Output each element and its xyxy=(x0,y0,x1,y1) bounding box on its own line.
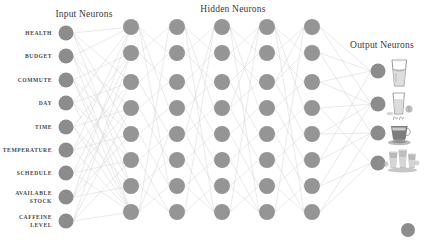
input-label-schedule: SCHEDULE xyxy=(17,170,52,176)
hidden-neurons-column-3 xyxy=(214,19,230,220)
edges-hidden4-to-hidden5 xyxy=(275,27,304,212)
input-label-available-stock-line2: STOCK xyxy=(30,198,52,204)
input-neuron[interactable] xyxy=(59,26,74,41)
hidden-neuron[interactable] xyxy=(304,45,320,61)
detached-neuron[interactable] xyxy=(401,223,415,237)
hidden-neuron[interactable] xyxy=(169,19,185,35)
input-layer-title: Input Neurons xyxy=(55,9,112,19)
input-labels: HEALTH BUDGET COMMUTE DAY TIME TEMPERATU… xyxy=(3,30,52,228)
hidden-neuron[interactable] xyxy=(169,45,185,61)
water-glass-icon xyxy=(392,59,407,86)
hidden-neuron[interactable] xyxy=(214,152,230,168)
hidden-neuron[interactable] xyxy=(304,178,320,194)
hidden-neuron[interactable] xyxy=(259,126,275,142)
drinks-tray-icon xyxy=(383,149,419,173)
hidden-neuron[interactable] xyxy=(259,19,275,35)
hidden-neuron[interactable] xyxy=(214,19,230,35)
coffee-cup-icon xyxy=(388,117,411,145)
edges-hidden3-to-hidden4 xyxy=(230,27,259,212)
hidden-neuron[interactable] xyxy=(259,45,275,61)
hidden-neuron[interactable] xyxy=(214,100,230,116)
input-label-budget: BUDGET xyxy=(25,53,52,59)
hidden-neuron[interactable] xyxy=(259,100,275,116)
hidden-neurons-column-4 xyxy=(259,19,275,220)
hidden-neuron[interactable] xyxy=(259,152,275,168)
input-neuron[interactable] xyxy=(59,96,74,111)
input-label-temperature: TEMPERATURE xyxy=(3,147,52,153)
hidden-neuron[interactable] xyxy=(123,74,139,90)
hidden-neuron[interactable] xyxy=(169,204,185,220)
hidden-neuron[interactable] xyxy=(123,126,139,142)
hidden-neuron[interactable] xyxy=(214,74,230,90)
hidden-neuron[interactable] xyxy=(169,152,185,168)
output-neuron[interactable] xyxy=(371,156,386,171)
edges-hidden5-to-output xyxy=(320,27,371,212)
hidden-neuron[interactable] xyxy=(169,126,185,142)
hidden-neuron[interactable] xyxy=(214,178,230,194)
input-label-available-stock-line1: AVAILABLE xyxy=(15,190,52,196)
hidden-neuron[interactable] xyxy=(123,152,139,168)
hidden-neuron[interactable] xyxy=(304,204,320,220)
input-neuron[interactable] xyxy=(59,73,74,88)
hidden-neuron[interactable] xyxy=(259,204,275,220)
edges-input-to-hidden1 xyxy=(73,27,131,221)
hidden-neurons-column-1 xyxy=(123,19,139,220)
hidden-neuron[interactable] xyxy=(304,74,320,90)
input-label-health: HEALTH xyxy=(25,30,52,36)
hidden-neuron[interactable] xyxy=(169,74,185,90)
input-neuron[interactable] xyxy=(59,166,74,181)
output-neurons xyxy=(371,64,386,171)
input-neuron[interactable] xyxy=(59,214,74,229)
hidden-neuron[interactable] xyxy=(169,100,185,116)
hidden-neuron[interactable] xyxy=(169,178,185,194)
hidden-neuron[interactable] xyxy=(214,45,230,61)
edges-hidden1-to-hidden2 xyxy=(139,27,169,212)
hidden-neuron[interactable] xyxy=(304,100,320,116)
hidden-neuron[interactable] xyxy=(123,45,139,61)
hidden-neurons-column-5 xyxy=(304,19,320,220)
hidden-neuron[interactable] xyxy=(123,19,139,35)
hidden-neurons-column-2 xyxy=(169,19,185,220)
input-neuron[interactable] xyxy=(59,190,74,205)
juice-glass-icon xyxy=(387,92,413,115)
output-neuron[interactable] xyxy=(371,64,386,79)
hidden-neuron[interactable] xyxy=(259,74,275,90)
hidden-neuron[interactable] xyxy=(304,126,320,142)
edges-hidden2-to-hidden3 xyxy=(185,27,214,212)
input-label-commute: COMMUTE xyxy=(18,77,52,83)
input-label-time: TIME xyxy=(35,124,52,130)
hidden-neuron[interactable] xyxy=(123,178,139,194)
hidden-neuron[interactable] xyxy=(259,178,275,194)
input-neuron[interactable] xyxy=(59,49,74,64)
hidden-neuron[interactable] xyxy=(214,204,230,220)
input-label-caffeine-level-line1: CAFFEINE xyxy=(19,214,52,220)
input-neurons xyxy=(59,26,74,229)
output-neuron[interactable] xyxy=(371,126,386,141)
hidden-neuron[interactable] xyxy=(304,152,320,168)
output-layer-title: Output Neurons xyxy=(350,40,414,50)
input-label-day: DAY xyxy=(39,100,52,106)
hidden-layer-title: Hidden Neurons xyxy=(200,4,265,14)
hidden-neuron[interactable] xyxy=(214,126,230,142)
input-label-caffeine-level-line2: LEVEL xyxy=(30,222,52,228)
input-neuron[interactable] xyxy=(59,120,74,135)
neural-network-diagram: Input Neurons Hidden Neurons Output Neur… xyxy=(0,0,433,247)
hidden-neuron[interactable] xyxy=(123,100,139,116)
hidden-neuron[interactable] xyxy=(123,204,139,220)
input-neuron[interactable] xyxy=(59,143,74,158)
hidden-neuron[interactable] xyxy=(304,19,320,35)
output-neuron[interactable] xyxy=(371,97,386,112)
